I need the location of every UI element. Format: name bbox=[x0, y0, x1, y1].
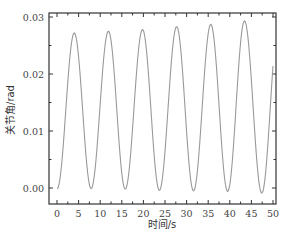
y-tick-label: 0.02 bbox=[23, 69, 44, 80]
y-axis-label: 关节角/rad bbox=[4, 85, 16, 135]
x-axis-label: 时间/s bbox=[148, 218, 177, 230]
x-tick-label: 40 bbox=[224, 208, 236, 219]
x-tick-label: 50 bbox=[267, 208, 279, 219]
x-tick-label: 10 bbox=[94, 208, 106, 219]
x-tick-label: 30 bbox=[181, 208, 193, 219]
x-tick-label: 25 bbox=[159, 208, 171, 219]
y-tick-label: 0.01 bbox=[23, 126, 44, 137]
y-tick-label: 0.03 bbox=[23, 12, 44, 23]
x-tick-label: 35 bbox=[202, 208, 214, 219]
x-tick-label: 15 bbox=[116, 208, 128, 219]
x-tick-label: 5 bbox=[76, 208, 82, 219]
x-tick-label: 0 bbox=[54, 208, 60, 219]
x-axis-ticks: 05101520253035404550 bbox=[54, 13, 279, 219]
chart: 05101520253035404550 0.000.010.020.03 时间… bbox=[0, 0, 289, 244]
y-axis-ticks: 0.000.010.020.03 bbox=[23, 12, 276, 194]
data-line bbox=[57, 21, 273, 193]
y-tick-label: 0.00 bbox=[23, 183, 44, 194]
x-tick-label: 45 bbox=[245, 208, 257, 219]
x-tick-label: 20 bbox=[137, 208, 149, 219]
